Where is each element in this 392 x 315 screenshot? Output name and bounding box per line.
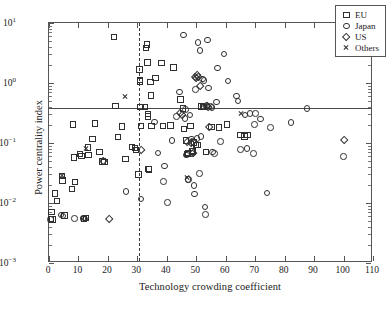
data-point-japan: [237, 146, 244, 153]
data-point-japan: [201, 77, 208, 84]
data-point-japan: [242, 112, 249, 119]
data-point-eu: [181, 126, 187, 132]
scatter-chart-figure: Power centrality index 10−310−210−110010…: [0, 0, 392, 315]
y-tick-1e-1: [49, 143, 54, 144]
data-point-japan: [169, 137, 176, 144]
data-point-eu: [96, 149, 102, 155]
data-point-japan: [188, 136, 195, 143]
legend-marker-circle-icon: [340, 20, 352, 31]
data-point-japan: [235, 98, 242, 105]
data-point-japan: [196, 170, 203, 177]
data-point-eu: [89, 136, 95, 142]
data-point-eu: [143, 45, 149, 51]
x-tick-70: [255, 256, 256, 261]
data-point-eu: [115, 134, 121, 140]
y-minor-tick: [49, 29, 52, 30]
data-point-japan: [192, 86, 199, 93]
circle-icon: [343, 23, 350, 30]
legend-item-eu[interactable]: EU: [340, 9, 379, 20]
data-point-eu: [160, 123, 166, 129]
data-point-us: [201, 102, 210, 111]
data-point-eu: [132, 145, 138, 151]
data-point-eu: [85, 144, 91, 150]
y-tick-1e-2: [49, 203, 54, 204]
x-tick-label-50: 50: [191, 265, 201, 275]
y-minor-tick: [368, 101, 371, 102]
data-point-japan: [202, 211, 209, 218]
data-point-eu: [78, 153, 84, 159]
data-point-japan: [225, 78, 232, 85]
data-point-japan: [195, 39, 202, 46]
data-point-us: [99, 157, 108, 166]
diamond-icon: [342, 33, 351, 42]
chart-legend[interactable]: EUJapanUSOthers: [335, 5, 386, 57]
data-point-eu: [119, 123, 125, 129]
x-tick-top-50: [196, 23, 197, 28]
data-point-japan: [173, 113, 180, 120]
data-point-japan: [60, 213, 67, 220]
y-minor-tick: [49, 65, 52, 66]
data-point-japan: [189, 150, 196, 157]
y-minor-tick: [49, 156, 52, 157]
y-tick-1e0: [49, 83, 54, 84]
data-point-eu: [190, 148, 196, 154]
x-tick-label-10: 10: [73, 265, 83, 275]
data-point-eu: [85, 152, 91, 158]
x-tick-label-40: 40: [161, 265, 171, 275]
x-tick-90: [314, 256, 315, 261]
data-point-japan: [251, 121, 258, 128]
legend-item-others[interactable]: Others: [340, 42, 379, 53]
y-minor-tick: [368, 92, 371, 93]
x-tick-label-110: 110: [365, 265, 379, 275]
data-point-eu: [147, 79, 153, 85]
data-point-japan: [244, 145, 251, 152]
data-point-japan: [187, 112, 194, 119]
data-point-japan: [250, 150, 257, 157]
legend-label-japan: Japan: [352, 21, 376, 31]
data-point-japan: [247, 110, 254, 117]
data-point-japan: [213, 99, 220, 106]
y-minor-tick: [49, 26, 52, 27]
data-point-eu: [189, 148, 195, 154]
legend-item-japan[interactable]: Japan: [340, 20, 379, 31]
data-point-eu: [237, 132, 243, 138]
x-tick-label-20: 20: [102, 265, 112, 275]
y-minor-tick: [49, 234, 52, 235]
data-point-us: [192, 74, 201, 83]
x-tick-20: [108, 256, 109, 261]
y-minor-tick: [368, 149, 371, 150]
y-minor-tick: [49, 54, 52, 55]
y-tick-label-1e-3: 10−3: [0, 256, 16, 268]
data-point-japan: [151, 119, 158, 126]
data-point-japan: [185, 176, 192, 183]
y-minor-tick: [49, 206, 52, 207]
data-point-us: [189, 148, 198, 157]
data-point-others: [59, 172, 65, 178]
data-point-others: [238, 111, 244, 117]
legend-item-us[interactable]: US: [340, 31, 379, 42]
y-minor-tick: [49, 101, 52, 102]
data-point-eu: [158, 60, 164, 66]
data-point-eu: [185, 150, 191, 156]
x-tick-label-90: 90: [308, 265, 318, 275]
y-tick-1e-3: [49, 263, 54, 264]
data-point-eu: [144, 59, 150, 65]
data-point-japan: [189, 138, 196, 145]
x-tick-10: [78, 256, 79, 261]
x-tick-label-0: 0: [46, 265, 51, 275]
x-tick-top-90: [314, 23, 315, 28]
data-point-eu: [193, 142, 199, 148]
y-minor-tick: [49, 221, 52, 222]
data-point-us: [202, 102, 211, 111]
y-minor-tick: [368, 212, 371, 213]
data-point-eu: [194, 142, 200, 148]
data-point-others: [83, 145, 89, 151]
data-point-japan: [58, 212, 65, 219]
y-axis-title: Power centrality index: [33, 48, 44, 248]
power-centrality-threshold-line: [49, 108, 371, 109]
data-point-japan: [185, 176, 192, 183]
data-point-us: [136, 146, 145, 155]
y-minor-tick: [49, 36, 52, 37]
data-point-japan: [264, 190, 271, 197]
y-minor-tick: [49, 245, 52, 246]
